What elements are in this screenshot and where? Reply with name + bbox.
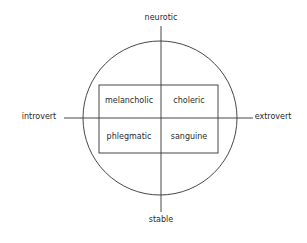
quadrant-label-top-left: melancholic xyxy=(105,97,153,105)
temperament-diagram xyxy=(0,0,307,243)
axis-label-bottom: stable xyxy=(149,216,173,224)
axis-label-left: introvert xyxy=(22,113,57,121)
quadrant-label-bottom-right: sanguine xyxy=(171,133,208,141)
axis-label-top: neurotic xyxy=(145,14,178,22)
axis-label-right: extrovert xyxy=(255,113,292,121)
quadrant-label-bottom-left: phlegmatic xyxy=(107,133,152,141)
quadrant-label-top-right: choleric xyxy=(173,97,204,105)
